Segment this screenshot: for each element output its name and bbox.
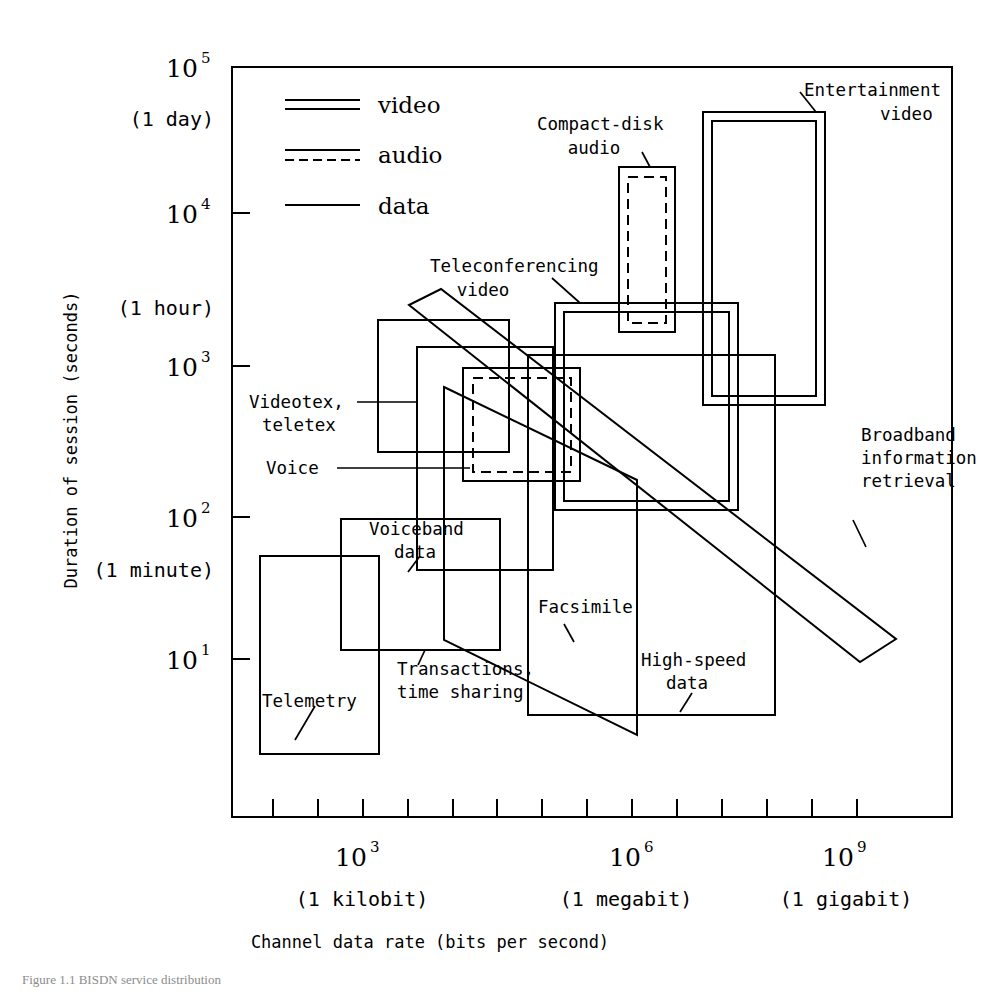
leader-compact-disk-audio	[642, 152, 650, 167]
label-facsimile: Facsimile	[538, 597, 633, 617]
label-teleconferencing-video-line2: video	[457, 280, 510, 300]
x-note-gigabit: (1 gigabit)	[780, 887, 912, 911]
y-label-10-1e5: 10	[166, 54, 198, 83]
service-distribution-chart: 10 5 10 4 10 3 10 2 10 1 (1 day) (1 hour…	[0, 0, 993, 991]
leader-facsimile	[564, 624, 574, 642]
legend-swatch-video	[285, 100, 360, 109]
label-teleconferencing-video-line1: Teleconferencing	[430, 256, 599, 276]
y-label-10-1e4: 10	[166, 200, 198, 229]
chart-legend: video audio data	[285, 92, 442, 219]
label-broadband-line1: Broadband	[861, 425, 956, 445]
label-videotex-teletex-line2: teletex	[262, 415, 336, 435]
y-label-10-1e1: 10	[166, 646, 198, 675]
label-voiceband-data-line2: data	[394, 542, 436, 562]
region-broadband-information-retrieval	[409, 289, 896, 662]
label-voice: Voice	[266, 458, 319, 478]
x-axis-ticks	[273, 799, 857, 817]
y-label-exp-1e3: 3	[201, 348, 211, 366]
region-entertainment-video	[703, 112, 825, 405]
y-label-10-1e3: 10	[166, 353, 198, 382]
legend-label-video: video	[377, 92, 441, 118]
label-transactions-line1: Transactions,	[397, 659, 534, 679]
label-high-speed-data-line2: data	[666, 673, 708, 693]
y-note-day: (1 day)	[130, 107, 214, 131]
leader-telemetry	[295, 706, 315, 740]
region-compact-disk-audio	[619, 167, 675, 332]
x-label-10-1e6: 10	[609, 843, 641, 872]
y-label-exp-1e5: 5	[201, 49, 211, 67]
x-note-kilobit: (1 kilobit)	[296, 887, 428, 911]
region-teleconferencing-video	[555, 303, 738, 510]
y-note-hour: (1 hour)	[118, 296, 214, 320]
label-broadband-line2: information	[861, 448, 977, 468]
y-label-exp-1e4: 4	[201, 195, 211, 213]
label-broadband-line3: retrieval	[861, 471, 956, 491]
legend-swatch-audio	[285, 150, 360, 160]
label-compact-disk-audio-line1: Compact-disk	[537, 114, 664, 134]
x-label-10-1e9: 10	[822, 843, 854, 872]
y-label-exp-1e1: 1	[201, 641, 211, 659]
y-label-exp-1e2: 2	[201, 499, 211, 517]
figure-caption: Figure 1.1 BISDN service distribution	[22, 972, 221, 988]
label-voiceband-data-line1: Voiceband	[369, 519, 464, 539]
x-label-exp-1e9: 9	[857, 838, 867, 856]
legend-label-audio: audio	[378, 142, 442, 168]
label-telemetry: Telemetry	[262, 691, 357, 711]
x-label-exp-1e3: 3	[370, 838, 380, 856]
y-label-10-1e2: 10	[166, 504, 198, 533]
leader-high-speed-data	[680, 693, 692, 712]
label-compact-disk-audio-line2: audio	[568, 138, 621, 158]
region-telemetry	[260, 556, 379, 754]
x-axis-title: Channel data rate (bits per second)	[251, 932, 609, 952]
y-axis-title: Duration of session (seconds)	[61, 292, 81, 589]
label-entertainment-video-line1: Entertainment	[804, 80, 941, 100]
label-high-speed-data-line1: High-speed	[641, 650, 746, 670]
y-axis-ticks	[232, 67, 250, 659]
figure-canvas: 10 5 10 4 10 3 10 2 10 1 (1 day) (1 hour…	[0, 0, 993, 991]
x-label-exp-1e6: 6	[644, 838, 654, 856]
leader-teleconferencing-video	[552, 278, 580, 303]
x-note-megabit: (1 megabit)	[560, 887, 692, 911]
x-axis-notes: (1 kilobit) (1 megabit) (1 gigabit)	[296, 887, 912, 911]
legend-label-data: data	[378, 193, 430, 219]
x-tick-labels: 10 3 10 6 10 9	[335, 838, 866, 872]
label-videotex-teletex-line1: Videotex,	[249, 392, 344, 412]
leader-broadband	[853, 520, 866, 547]
label-transactions-line2: time sharing	[397, 682, 523, 702]
label-entertainment-video-line2: video	[880, 104, 933, 124]
y-note-minute: (1 minute)	[94, 558, 214, 582]
x-label-10-1e3: 10	[335, 843, 367, 872]
